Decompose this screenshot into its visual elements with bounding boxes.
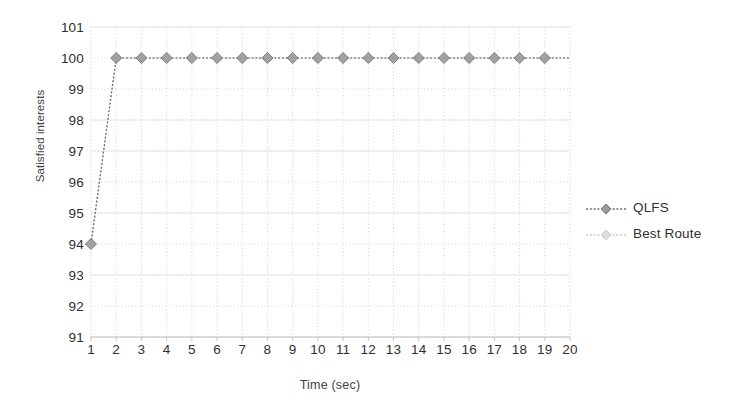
data-point-marker <box>438 53 449 64</box>
y-axis-tick-label: 93 <box>52 268 84 283</box>
y-axis-tick-label: 95 <box>52 206 84 221</box>
x-axis-title: Time (sec) <box>90 378 570 392</box>
legend-label: QLFS <box>633 200 669 215</box>
y-axis-tick-label: 94 <box>52 237 84 252</box>
data-point-marker <box>312 53 323 64</box>
data-point-marker <box>186 53 197 64</box>
legend-item[interactable]: Best Route <box>586 220 736 246</box>
data-point-marker <box>338 53 349 64</box>
x-axis-tick-labels: 1234567891011121314151617181920 <box>91 342 570 364</box>
data-point-marker <box>161 53 172 64</box>
y-axis-tick-label: 99 <box>52 82 84 97</box>
chart-figure: Satisfied interests 10110099989796959493… <box>0 0 745 417</box>
data-point-marker <box>136 53 147 64</box>
data-point-marker <box>514 53 525 64</box>
y-axis-tick-label: 96 <box>52 175 84 190</box>
data-point-marker <box>413 53 424 64</box>
plot-area <box>91 27 570 337</box>
y-axis-tick-label: 100 <box>52 51 84 66</box>
chart-legend: QLFSBest Route <box>586 194 736 246</box>
data-point-marker <box>363 53 374 64</box>
y-axis-tick-label: 92 <box>52 299 84 314</box>
x-axis-tick-label: 20 <box>555 342 585 357</box>
data-point-marker <box>489 53 500 64</box>
legend-marker-icon <box>586 201 626 213</box>
data-point-marker <box>237 53 248 64</box>
y-axis-tick-label: 97 <box>52 144 84 159</box>
y-axis-tick-label: 101 <box>52 20 84 35</box>
data-point-marker <box>388 53 399 64</box>
data-point-marker <box>539 53 550 64</box>
data-point-marker <box>212 53 223 64</box>
data-point-marker <box>287 53 298 64</box>
data-point-marker <box>262 53 273 64</box>
data-point-marker <box>86 239 97 250</box>
plot-svg <box>91 27 570 337</box>
legend-item[interactable]: QLFS <box>586 194 736 220</box>
y-axis-tick-label: 98 <box>52 113 84 128</box>
legend-label: Best Route <box>633 226 701 241</box>
y-axis-title: Satisfied interests <box>34 56 46 216</box>
data-point-marker <box>111 53 122 64</box>
data-point-marker <box>464 53 475 64</box>
legend-marker-icon <box>586 227 626 239</box>
